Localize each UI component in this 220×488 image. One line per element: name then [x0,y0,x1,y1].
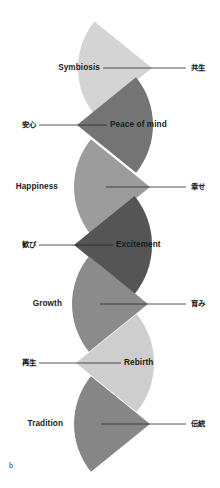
label-en-symbiosis: Symbiosis [58,64,100,72]
label-jp-tradition: 伝統 [191,420,205,427]
label-en-excitement: Excitement [116,241,161,249]
label-jp-rebirth: 再生 [22,359,36,366]
concept-fan-diagram: Symbiosis共生Peace of mind安心Happiness幸せExc… [0,0,220,488]
label-en-rebirth: Rebirth [124,359,153,367]
label-jp-growth: 育み [191,300,205,307]
label-jp-happiness: 幸せ [191,183,205,190]
label-en-tradition: Tradition [28,420,63,428]
label-jp-symbiosis: 共生 [191,64,205,71]
label-en-happiness: Happiness [16,183,58,191]
label-jp-excitement: 歓び [22,241,36,248]
label-jp-peace-of-mind: 安心 [22,121,36,128]
label-en-growth: Growth [33,300,62,308]
label-en-peace-of-mind: Peace of mind [110,121,167,129]
panel-letter: b [9,462,13,470]
